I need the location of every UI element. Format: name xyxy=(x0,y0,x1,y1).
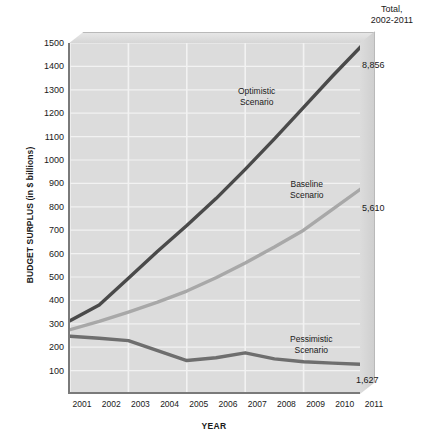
x-axis-tick-label: 2003 xyxy=(124,399,156,409)
y-axis-tick-label: 1100 xyxy=(22,132,64,142)
x-axis-tick-label: 2009 xyxy=(300,399,332,409)
x-axis-tick-labels: 2001200220032004200520062007200820092010… xyxy=(68,399,368,413)
series-label-baseline-line1: Baseline xyxy=(290,179,324,190)
y-axis-tick-label: 400 xyxy=(22,295,64,305)
y-axis-tick-label: 800 xyxy=(22,202,64,212)
x-axis-tick-label: 2001 xyxy=(66,399,98,409)
y-axis-tick-label: 300 xyxy=(22,319,64,329)
x-axis-tick-label: 2006 xyxy=(212,399,244,409)
series-total-pessimistic: 1,627 xyxy=(356,375,379,385)
y-axis-tick-label: 500 xyxy=(22,272,64,282)
y-axis-tick-label: 1300 xyxy=(22,85,64,95)
x-axis-tick-label: 2004 xyxy=(154,399,186,409)
series-label-pessimistic-line1: Pessimistic xyxy=(290,334,333,345)
y-axis-tick-label: 1200 xyxy=(22,108,64,118)
series-total-baseline: 5,610 xyxy=(362,203,385,213)
series-label-pessimistic-line2: Scenario xyxy=(290,345,333,356)
y-axis-tick-label: 600 xyxy=(22,249,64,259)
series-label-pessimistic: Pessimistic Scenario xyxy=(290,334,333,355)
x-axis-tick-label: 2005 xyxy=(183,399,215,409)
y-axis-tick-label: 200 xyxy=(22,342,64,352)
x-axis-tick-label: 2002 xyxy=(95,399,127,409)
y-axis-tick-label: 900 xyxy=(22,178,64,188)
series-label-optimistic-line2: Scenario xyxy=(238,97,275,108)
series-label-optimistic: Optimistic Scenario xyxy=(238,86,275,107)
y-axis-tick-label: 700 xyxy=(22,225,64,235)
x-axis-tick-label: 2010 xyxy=(329,399,361,409)
total-header-line1: Total, xyxy=(371,4,413,15)
total-header: Total, 2002-2011 xyxy=(371,4,413,26)
x-axis-tick-label: 2008 xyxy=(270,399,302,409)
y-axis-tick-label: 1400 xyxy=(22,61,64,71)
y-axis-tick-label: 1000 xyxy=(22,155,64,165)
series-total-optimistic: 8,856 xyxy=(362,60,385,70)
budget-surplus-line-chart: Total, 2002-2011 BUDGET SURPLUS (in $ bi… xyxy=(0,0,421,439)
y-axis-tick-label: 100 xyxy=(22,366,64,376)
x-axis-tick-label: 2007 xyxy=(241,399,273,409)
series-label-optimistic-line1: Optimistic xyxy=(238,86,275,97)
y-axis-tick-label: 1500 xyxy=(22,38,64,48)
total-header-line2: 2002-2011 xyxy=(371,15,413,26)
y-axis-tick-labels: 1500140013001200110010009008007006005004… xyxy=(20,0,64,439)
series-label-baseline-line2: Scenario xyxy=(290,190,324,201)
series-line-baseline xyxy=(70,188,360,330)
x-axis-title: YEAR xyxy=(68,421,360,431)
series-label-baseline: Baseline Scenario xyxy=(290,179,324,200)
x-axis-tick-label: 2011 xyxy=(358,399,390,409)
